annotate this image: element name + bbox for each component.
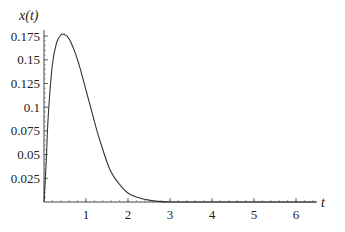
x-tick-label: 2 bbox=[125, 207, 132, 222]
y-tick-label: 0.05 bbox=[17, 147, 40, 162]
y-tick-label: 0.175 bbox=[11, 29, 40, 44]
x-tick-label: 5 bbox=[251, 207, 258, 222]
y-tick-label: 0.15 bbox=[17, 52, 40, 67]
plot-area: 1234560.0250.050.0750.10.1250.150.175 x(… bbox=[0, 0, 345, 232]
x-tick-label: 1 bbox=[83, 207, 90, 222]
x-tick-label: 6 bbox=[293, 207, 300, 222]
ticks: 1234560.0250.050.0750.10.1250.150.175 bbox=[11, 29, 313, 222]
y-tick-label: 0.025 bbox=[11, 171, 40, 186]
x-tick-label: 4 bbox=[209, 207, 216, 222]
x-tick-label: 3 bbox=[167, 207, 174, 222]
y-tick-label: 0.125 bbox=[11, 76, 40, 91]
data-curve bbox=[44, 34, 317, 202]
x-axis-label: t bbox=[321, 195, 326, 210]
y-tick-label: 0.1 bbox=[24, 100, 40, 115]
y-axis-label: x(t) bbox=[18, 8, 39, 24]
axes bbox=[44, 30, 316, 202]
y-tick-label: 0.075 bbox=[11, 123, 40, 138]
